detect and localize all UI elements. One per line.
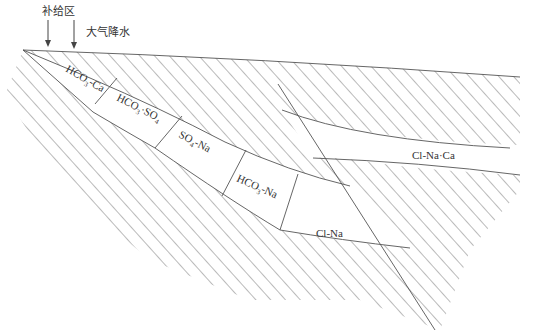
recharge-zone-label: 补给区 — [42, 5, 75, 18]
precipitation-label: 大气降水 — [86, 25, 130, 39]
recharge-arrows — [45, 20, 77, 49]
zone-label-cl-na-ca: Cl-Na·Ca — [412, 149, 455, 161]
hydrogeology-cross-section: 补给区 大气降水 HCO3-Ca HCO3·SO4 SO4-Na HCO3-Na… — [0, 0, 533, 330]
zone-label-cl-na: Cl-Na — [316, 227, 343, 239]
